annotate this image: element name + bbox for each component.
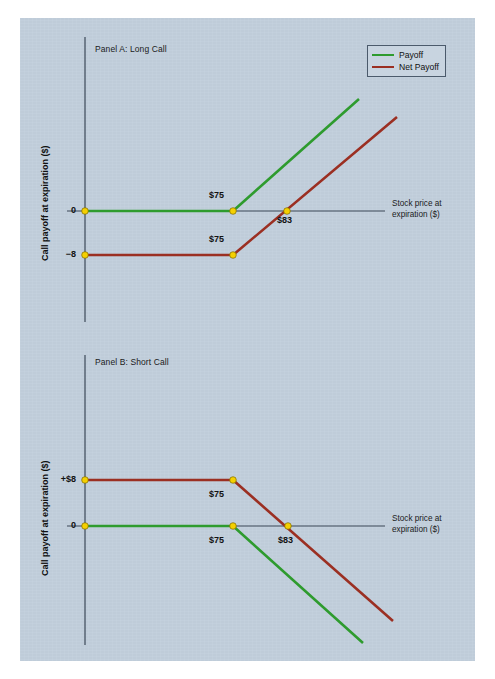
panel-b-plot	[20, 343, 475, 661]
panel-a-label-netpayoff-strike: $75	[209, 234, 224, 244]
marker-origin-zero	[82, 523, 89, 530]
panel-b-label-breakeven: $83	[278, 535, 293, 545]
panel-a-y-axis-label: Call payoff at expiration ($)	[40, 145, 50, 261]
panel-b-label-netpayoff-strike: $75	[209, 489, 224, 499]
panel-b-short-call: Panel B: Short Call Call payoff at expir…	[20, 343, 475, 661]
marker-netpayoff-strike	[230, 252, 237, 259]
marker-netpayoff-strike	[230, 477, 237, 484]
legend-item-payoff: Payoff	[372, 49, 439, 61]
panel-b-label-payoff-strike: $75	[209, 535, 224, 545]
panel-a-x-axis-label-line1: Stock price at	[392, 198, 442, 209]
panel-a-x-axis-label-line2: expiration ($)	[392, 209, 442, 220]
panel-a-x-axis-label: Stock price at expiration ($)	[392, 198, 442, 220]
panel-a-long-call: Panel A: Long Call Call payoff at expira…	[20, 18, 475, 343]
marker-origin-premium	[82, 477, 89, 484]
panel-a-label-breakeven: $83	[277, 215, 292, 225]
legend-swatch-net-payoff-icon	[372, 66, 394, 69]
marker-origin-premium	[82, 252, 89, 259]
marker-payoff-strike	[230, 523, 237, 530]
legend-item-net-payoff: Net Payoff	[372, 61, 439, 73]
marker-breakeven	[285, 523, 292, 530]
panel-a-ytick-zero: 0	[50, 205, 76, 215]
panel-a-label-payoff-strike: $75	[209, 190, 224, 200]
legend-swatch-payoff-icon	[372, 54, 394, 57]
panel-b-x-axis-label-line2: expiration ($)	[392, 524, 442, 535]
panel-b-ytick-zero: 0	[50, 520, 76, 530]
series-net-payoff-line	[85, 117, 397, 255]
panel-b-x-axis-label-line1: Stock price at	[392, 513, 442, 524]
panel-b-x-axis-label: Stock price at expiration ($)	[392, 513, 442, 535]
marker-breakeven	[284, 208, 291, 215]
panel-b-title: Panel B: Short Call	[95, 357, 169, 367]
series-net-payoff-line	[85, 480, 393, 621]
legend: Payoff Net Payoff	[367, 45, 446, 77]
marker-origin-zero	[82, 208, 89, 215]
figure-canvas: Panel A: Long Call Call payoff at expira…	[0, 0, 495, 679]
legend-label-payoff: Payoff	[399, 50, 423, 60]
panel-b-ytick-plus8: +$8	[38, 474, 76, 484]
panel-a-ytick-minus8: −8	[42, 249, 76, 259]
marker-payoff-strike	[230, 208, 237, 215]
legend-label-net-payoff: Net Payoff	[399, 62, 439, 72]
panel-a-title: Panel A: Long Call	[95, 44, 167, 54]
